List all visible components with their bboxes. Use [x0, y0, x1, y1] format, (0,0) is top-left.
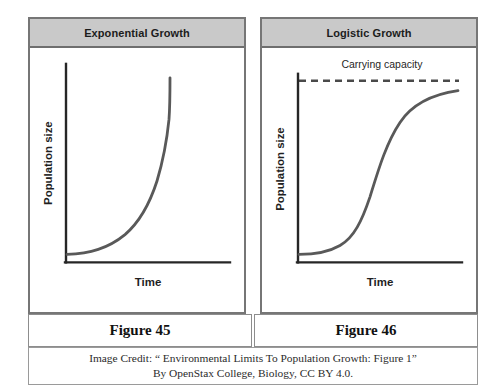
y-axis-label: Population size [42, 121, 54, 205]
figure-caption-row: Figure 45 Figure 46 [28, 314, 478, 347]
figure-caption-46: Figure 46 [254, 314, 478, 347]
logistic-curve [299, 91, 458, 255]
panel-logistic-growth: Logistic Growth Carrying capacity Popula… [260, 17, 478, 314]
exponential-curve [67, 78, 170, 255]
x-axis-label: Time [367, 276, 394, 288]
x-axis-label: Time [135, 276, 162, 288]
chart-logistic-growth: Carrying capacity Population size Time [262, 48, 476, 312]
figure-container: Exponential Growth Population size Time [0, 0, 499, 390]
logistic-chart-svg: Carrying capacity Population size Time [262, 48, 476, 312]
figure-panels: Exponential Growth Population size Time [28, 17, 478, 314]
panel-header-exponential: Exponential Growth [30, 19, 244, 48]
image-credit-line-1: Image Credit: “ Environmental Limits To … [89, 351, 417, 366]
chart-exponential-growth: Population size Time [30, 48, 244, 312]
figure-caption-45: Figure 45 [28, 314, 252, 347]
carrying-capacity-label: Carrying capacity [341, 59, 423, 70]
panel-header-logistic: Logistic Growth [262, 19, 476, 48]
image-credit-row: Image Credit: “ Environmental Limits To … [28, 347, 478, 385]
y-axis-label: Population size [274, 127, 286, 211]
image-credit-line-2: By OpenStax College, Biology, CC BY 4.0. [153, 366, 353, 381]
exponential-chart-svg: Population size Time [30, 48, 244, 312]
panel-exponential-growth: Exponential Growth Population size Time [28, 17, 246, 314]
